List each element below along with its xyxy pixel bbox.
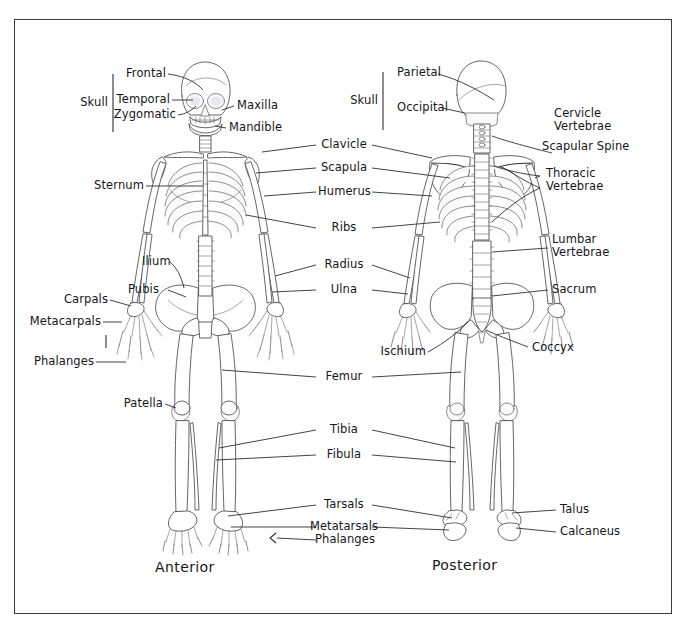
label-sternum: Sternum [66, 179, 144, 192]
label-scapula: Scapula [318, 161, 370, 174]
label-tarsals: Tarsals [318, 498, 370, 511]
label-mandible: Mandible [229, 121, 282, 134]
label-phalanges-hand: Phalanges [26, 355, 94, 368]
label-radius: Radius [318, 258, 370, 271]
label-cervicle-vertebrae: Cervicle Vertebrae [554, 107, 611, 133]
label-occipital: Occipital [397, 101, 448, 114]
skeleton-diagram: Skull Skull Frontal Temporal Zygomatic M… [0, 0, 688, 633]
anterior-ribcage [165, 160, 246, 238]
label-ischium: Ischium [368, 345, 426, 358]
anterior-legs [163, 334, 248, 555]
caption-anterior: Anterior [155, 559, 255, 575]
label-scapular-spine: Scapular Spine [542, 140, 629, 153]
label-humerus: Humerus [318, 185, 370, 198]
label-ribs: Ribs [318, 221, 370, 234]
posterior-legs [443, 333, 521, 541]
anterior-lumbar-spine [197, 236, 214, 296]
label-ilium: Ilium [142, 255, 171, 268]
label-tibia: Tibia [318, 423, 370, 436]
label-phalanges-foot: Phalanges [312, 533, 378, 546]
label-calcaneus: Calcaneus [560, 525, 620, 538]
label-lumbar-vertebrae: Lumbar Vertebrae [552, 233, 609, 259]
posterior-left-arm [391, 164, 438, 354]
label-parietal: Parietal [397, 66, 441, 79]
posterior-skeleton [391, 61, 573, 541]
posterior-lumbar-spine [470, 241, 494, 300]
anterior-skeleton [117, 62, 294, 555]
label-ulna: Ulna [318, 283, 370, 296]
label-frontal: Frontal [86, 67, 166, 80]
label-carpals: Carpals [42, 293, 108, 306]
label-fibula: Fibula [318, 448, 370, 461]
group-label-skull-posterior: Skull [326, 94, 378, 107]
label-femur: Femur [318, 370, 370, 383]
label-patella: Patella [97, 397, 163, 410]
label-zygomatic: Zygomatic [82, 108, 176, 121]
label-metacarpals: Metacarpals [18, 315, 101, 328]
label-talus: Talus [560, 503, 589, 516]
label-thoracic-vertebrae: Thoracic Vertebrae [546, 167, 603, 193]
caption-posterior: Posterior [432, 557, 532, 573]
label-pubis: Pubis [128, 283, 159, 296]
anterior-right-arm [245, 162, 294, 360]
label-clavicle: Clavicle [318, 138, 370, 151]
label-sacrum: Sacrum [552, 283, 597, 296]
label-coccyx: Coccyx [532, 341, 574, 354]
label-maxilla: Maxilla [237, 99, 278, 112]
label-temporal: Temporal [86, 93, 170, 106]
